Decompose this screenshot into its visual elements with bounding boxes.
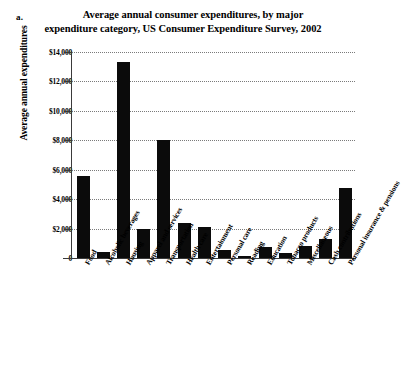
x-axis-category-labels: FoodAlcoholic beveragesHousingApparel an…	[72, 258, 355, 384]
y-axis-ticks: $14,000$12,000$10,000$8,000$6,000$4,000$…	[0, 0, 72, 384]
bar	[77, 176, 90, 258]
chart-title: Average annual consumer expenditures, by…	[38, 8, 348, 36]
chart-title-line-1: Average annual consumer expenditures, by…	[38, 8, 348, 22]
